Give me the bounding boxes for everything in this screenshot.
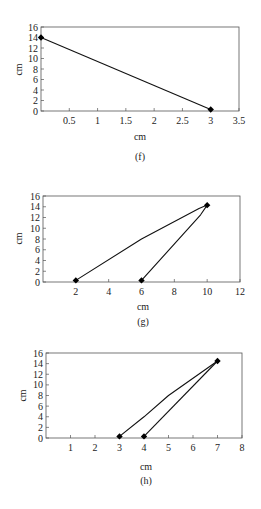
y-tick-label: 16: [33, 348, 43, 359]
series-line-lower: [144, 361, 218, 436]
chart-h-plot: 024681012141612345678: [0, 0, 261, 509]
chart-h: 024681012141612345678 cm cm (h): [0, 0, 261, 509]
chart-h-ylabel: cm: [17, 386, 28, 406]
y-tick-label: 8: [38, 390, 43, 401]
y-tick-label: 2: [38, 422, 43, 433]
y-tick-label: 6: [38, 401, 43, 412]
y-tick-label: 10: [33, 379, 43, 390]
y-tick-label: 14: [33, 358, 43, 369]
x-tick-label: 1: [68, 442, 73, 453]
x-tick-label: 8: [240, 442, 245, 453]
x-tick-label: 7: [215, 442, 220, 453]
x-tick-label: 6: [191, 442, 196, 453]
chart-h-xlabel: cm: [126, 461, 166, 472]
y-tick-label: 0: [38, 433, 43, 444]
chart-h-caption: (h): [126, 475, 166, 486]
series-line-upper: [120, 361, 218, 436]
x-tick-label: 2: [93, 442, 98, 453]
x-tick-label: 4: [142, 442, 147, 453]
x-tick-label: 5: [166, 442, 171, 453]
x-tick-label: 3: [117, 442, 122, 453]
y-tick-label: 4: [38, 411, 43, 422]
y-tick-label: 12: [33, 369, 43, 380]
